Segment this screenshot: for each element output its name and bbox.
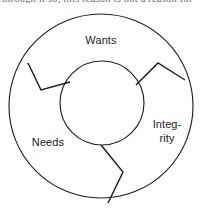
segment-label-integrity-line2: rity bbox=[159, 132, 174, 144]
segment-label-needs: Needs bbox=[32, 136, 65, 148]
divider-needs-integrity bbox=[101, 145, 123, 203]
divider-wants-integrity bbox=[136, 63, 185, 85]
segment-label-wants: Wants bbox=[85, 34, 117, 46]
figure-page: through it so, this reason is not a reas… bbox=[0, 0, 206, 209]
segment-label-integrity-line1: Integ- bbox=[153, 118, 182, 130]
segmented-ring-diagram: Wants Needs Integ- rity bbox=[0, 0, 206, 209]
inner-hub-circle bbox=[60, 61, 144, 145]
